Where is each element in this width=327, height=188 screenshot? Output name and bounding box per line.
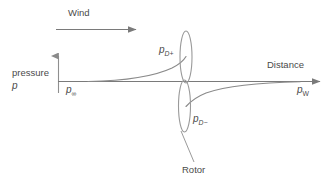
pressure-curve-downstream [186, 82, 300, 107]
pressure-disc-upstream-label: pD+ [159, 44, 173, 58]
rotor-blade-lower [179, 80, 191, 132]
diagram-vector-layer [0, 0, 327, 188]
pressure-disc-upstream-subscript: D+ [165, 50, 174, 57]
pressure-axis-label-line2: p [12, 80, 49, 92]
pressure-axis-label-line1: pressure [12, 67, 49, 78]
pressure-disc-downstream-label: pD− [193, 113, 207, 127]
pressure-disc-downstream-subscript: D− [199, 119, 208, 126]
pressure-wake-subscript: W [303, 90, 309, 97]
pressure-upstream-label: p∞ [66, 84, 76, 98]
pressure-wake-label: pW [297, 84, 309, 98]
distance-axis-label: Distance [267, 60, 304, 71]
rotor-leader-line [181, 131, 194, 162]
pressure-axis-label: pressure p [12, 68, 49, 91]
wind-label: Wind [68, 8, 90, 19]
figure-canvas: Wind pressure p Distance p∞ pW pD+ pD− R… [0, 0, 327, 188]
rotor-label: Rotor [182, 165, 205, 176]
pressure-curve-upstream [88, 57, 186, 82]
pressure-upstream-subscript: ∞ [72, 90, 77, 97]
